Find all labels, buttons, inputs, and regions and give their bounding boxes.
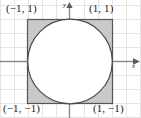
figure-canvas	[0, 0, 141, 118]
inscribed-circle	[28, 19, 113, 104]
y-axis-label: y	[63, 2, 66, 9]
corner-label-top-right: (1, 1)	[89, 3, 113, 14]
x-axis-label: x	[132, 63, 135, 70]
corner-label-top-left: (−1, 1)	[6, 3, 37, 14]
corner-label-bottom-left: (−1, −1)	[3, 103, 40, 114]
math-figure: (−1, 1) (1, 1) (−1, −1) (1, −1) y x	[0, 0, 141, 118]
corner-label-bottom-right: (1, −1)	[93, 103, 124, 114]
